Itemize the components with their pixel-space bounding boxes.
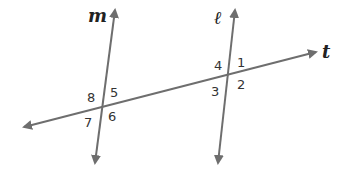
- angle-label-1: 1: [237, 55, 245, 70]
- angle-label-2: 2: [237, 77, 245, 92]
- angle-label-7: 7: [84, 115, 92, 130]
- angle-label-6: 6: [108, 109, 116, 124]
- label-line-t: t: [322, 41, 331, 62]
- line-t: [24, 52, 316, 127]
- line-l: [218, 10, 235, 163]
- label-line-m: m: [88, 5, 107, 26]
- angle-label-5: 5: [110, 85, 118, 100]
- angle-label-3: 3: [211, 84, 219, 99]
- label-line-l: ℓ: [214, 7, 222, 28]
- geometry-diagram: m ℓ t 1 2 3 4 5 6 7 8: [0, 0, 352, 175]
- angle-label-8: 8: [87, 90, 95, 105]
- angle-label-4: 4: [214, 58, 222, 73]
